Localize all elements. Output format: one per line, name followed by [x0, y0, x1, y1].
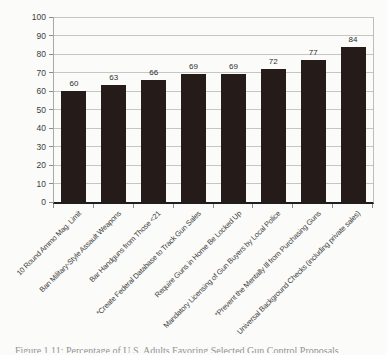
x-axis-tick: [93, 204, 94, 208]
y-axis-tick-label: 60: [20, 86, 46, 96]
bar-value-label: 69: [189, 62, 198, 71]
y-axis-tick: [49, 35, 53, 36]
y-axis-tick-label: 100: [20, 12, 46, 22]
y-axis-tick: [49, 109, 53, 110]
bar-value-label: 72: [269, 57, 278, 66]
x-axis-tick: [372, 204, 373, 208]
bar: [221, 74, 246, 202]
y-axis-tick-label: 30: [20, 142, 46, 152]
y-axis-tick-label: 20: [20, 160, 46, 170]
bar: [141, 80, 166, 202]
y-axis-tick: [49, 165, 53, 166]
gridline: [54, 54, 373, 55]
x-axis-tick: [252, 204, 253, 208]
bar: [301, 60, 326, 202]
y-axis-tick-label: 10: [20, 179, 46, 189]
y-axis-tick-label: 40: [20, 123, 46, 133]
gridline: [54, 35, 373, 36]
figure-caption: Figure 1.11: Percentage of U.S. Adults F…: [15, 345, 380, 353]
x-axis-category-label: Ban Military-Style Assault Weapons: [38, 209, 123, 294]
y-axis-tick-label: 0: [20, 197, 46, 207]
bar: [341, 47, 366, 202]
x-axis-tick: [292, 204, 293, 208]
x-axis-category-label: Bar Handguns from Those <21: [88, 209, 163, 284]
y-axis-tick: [49, 91, 53, 92]
y-axis-tick-label: 90: [20, 31, 46, 41]
y-axis-tick-label: 70: [20, 68, 46, 78]
scanned-chart-page: 6063666969727784 0102030405060708090100 …: [0, 0, 387, 355]
bar: [261, 69, 286, 202]
y-axis-tick: [49, 17, 53, 18]
y-axis-tick: [49, 128, 53, 129]
y-axis-tick-label: 80: [20, 49, 46, 59]
x-axis-tick: [332, 204, 333, 208]
bar-value-label: 66: [149, 68, 158, 77]
plot-area: 6063666969727784: [53, 17, 374, 204]
gridline: [54, 17, 373, 18]
bar-value-label: 77: [309, 48, 318, 57]
x-axis-tick: [133, 204, 134, 208]
x-axis-tick: [53, 204, 54, 208]
y-axis-tick: [49, 54, 53, 55]
y-axis-tick: [49, 146, 53, 147]
x-axis-tick: [213, 204, 214, 208]
bar: [181, 74, 206, 202]
y-axis-tick: [49, 202, 53, 203]
bar: [101, 85, 126, 202]
y-axis-tick-label: 50: [20, 105, 46, 115]
bar-chart: 6063666969727784 0102030405060708090100 …: [0, 0, 387, 355]
bar-value-label: 63: [109, 73, 118, 82]
y-axis-tick: [49, 183, 53, 184]
y-axis-tick: [49, 72, 53, 73]
bar-value-label: 69: [229, 62, 238, 71]
bar: [61, 91, 86, 202]
x-axis-tick: [173, 204, 174, 208]
bar-value-label: 84: [349, 35, 358, 44]
bar-value-label: 60: [69, 79, 78, 88]
x-axis-category-label: 10 Round Ammo Mag. Limit: [15, 209, 83, 277]
